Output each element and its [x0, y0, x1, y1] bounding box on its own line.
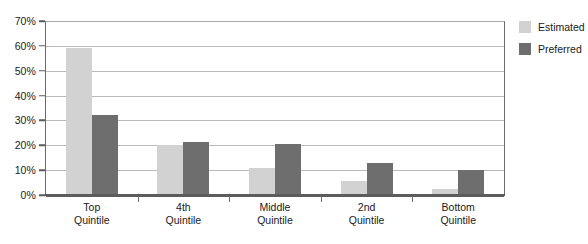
x-axis-group-label: MiddleQuintile	[227, 201, 323, 226]
x-axis-label-line2: Quintile	[135, 214, 231, 227]
x-axis-tick-mark	[321, 196, 322, 202]
x-axis-label-line1: Middle	[260, 201, 291, 213]
bar-group	[249, 21, 301, 195]
x-axis-label-line2: Quintile	[44, 214, 140, 227]
legend-item-label: Preferred	[538, 43, 582, 55]
bar-preferred	[92, 115, 118, 195]
y-axis-tick-label: 60%	[15, 40, 36, 52]
y-axis-tick-label: 40%	[15, 90, 36, 102]
y-axis-tick-label: 30%	[15, 114, 36, 126]
legend-item[interactable]: Preferred	[519, 40, 588, 57]
bars-layer	[46, 21, 504, 195]
bar-estimated	[66, 48, 92, 195]
y-axis-tick-label: 70%	[15, 15, 36, 27]
bar-group	[341, 21, 393, 195]
y-axis-tick-label: 0%	[21, 189, 36, 201]
x-axis-label-line2: Quintile	[227, 214, 323, 227]
bar-estimated	[249, 168, 275, 195]
x-axis-tick-mark	[229, 196, 230, 202]
bar-estimated	[157, 145, 183, 195]
legend-item[interactable]: Estimated	[519, 18, 588, 35]
chart-page: 70%60%50%40%30%20%10%0% EstimatedPreferr…	[0, 0, 588, 244]
x-axis-group-label: TopQuintile	[44, 201, 140, 226]
x-axis-label-line1: 2nd	[358, 201, 376, 213]
bar-group	[432, 21, 484, 195]
x-axis-label-line1: 4th	[176, 201, 191, 213]
x-axis-label-line1: Bottom	[442, 201, 475, 213]
bar-group	[157, 21, 209, 195]
y-axis: 70%60%50%40%30%20%10%0%	[0, 21, 45, 195]
bar-preferred	[367, 163, 393, 195]
x-axis-label-line2: Quintile	[410, 214, 506, 227]
x-axis-line	[45, 194, 505, 196]
y-axis-tick-label: 20%	[15, 139, 36, 151]
x-axis-label-line1: Top	[83, 201, 100, 213]
estimated-swatch	[519, 21, 531, 33]
legend-item-label: Estimated	[538, 21, 585, 33]
preferred-swatch	[519, 43, 531, 55]
x-axis-group-label: 4thQuintile	[135, 201, 231, 226]
chart-legend: EstimatedPreferred	[519, 18, 588, 62]
bar-preferred	[458, 170, 484, 195]
x-axis-tick-mark	[138, 196, 139, 202]
bar-preferred	[183, 142, 209, 195]
bar-preferred	[275, 144, 301, 195]
y-axis-tick-label: 50%	[15, 65, 36, 77]
x-axis-tick-mark	[412, 196, 413, 202]
x-axis-label-line2: Quintile	[319, 214, 415, 227]
y-axis-tick-label: 10%	[15, 164, 36, 176]
x-axis-group-label: BottomQuintile	[410, 201, 506, 226]
x-axis-group-label: 2ndQuintile	[319, 201, 415, 226]
bar-group	[66, 21, 118, 195]
bar-estimated	[341, 181, 367, 195]
